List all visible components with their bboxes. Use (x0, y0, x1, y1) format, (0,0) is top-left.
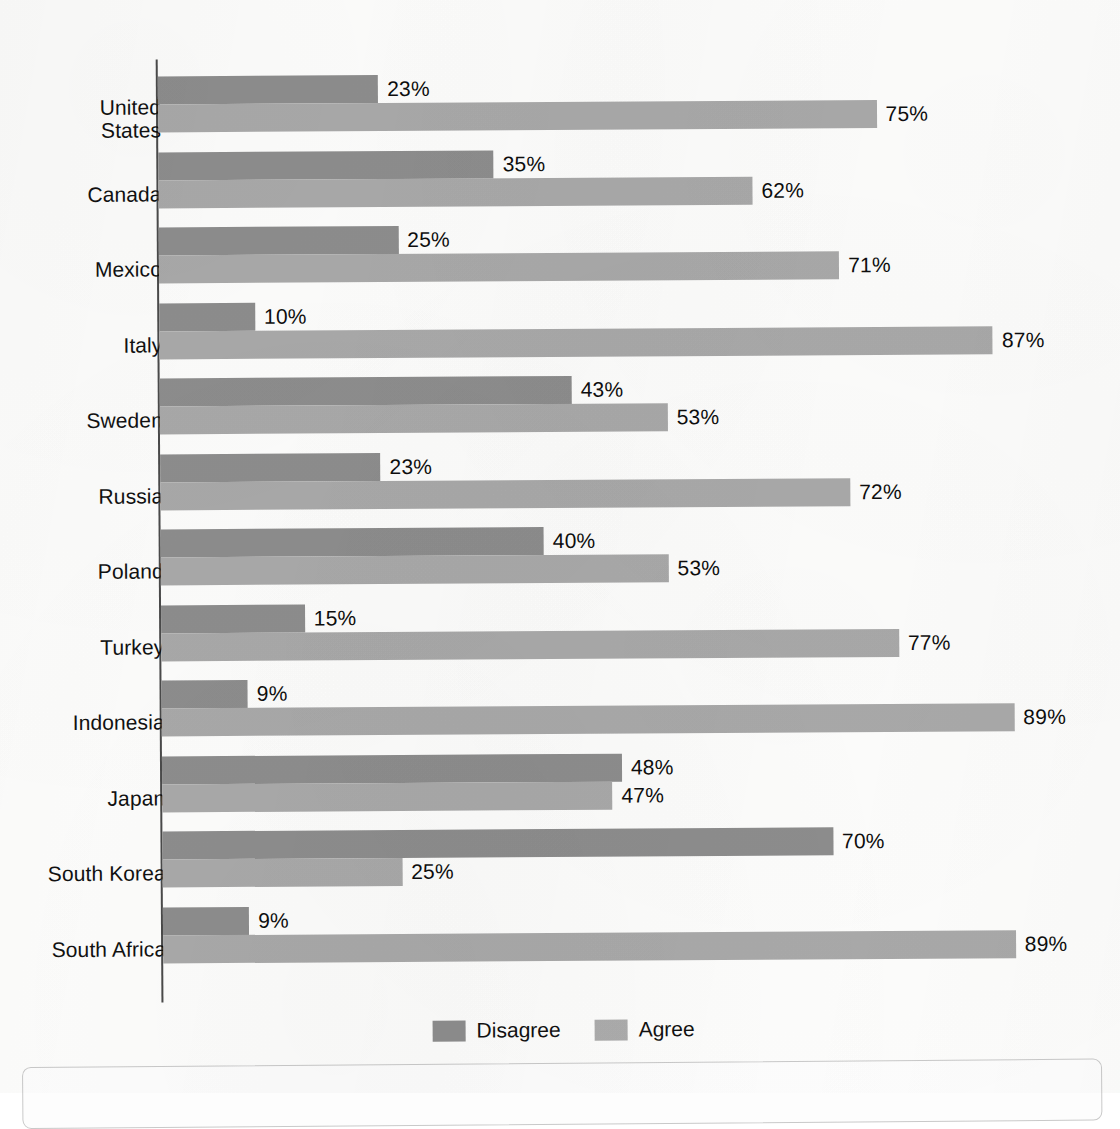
bar-disagree-sweden (160, 376, 572, 407)
bar-row-disagree: 48% (162, 753, 622, 784)
bar-row-disagree: 43% (160, 376, 572, 407)
bar-value-label: 53% (677, 405, 720, 429)
bar-value-label: 35% (503, 152, 546, 176)
bar-disagree-poland (161, 527, 544, 557)
country-group: Poland40%53% (1, 524, 1120, 591)
category-label-canada: Canada (0, 182, 162, 207)
bar-value-label: 40% (553, 529, 596, 553)
bar-row-disagree: 10% (159, 302, 255, 331)
country-group: South Africa9%89% (3, 901, 1120, 968)
bar-agree-mexico (159, 251, 839, 283)
bar-row-disagree: 25% (159, 226, 399, 255)
bar-value-label: 9% (257, 682, 288, 706)
bar-disagree-italy (159, 302, 255, 331)
bar-row-agree: 77% (161, 628, 899, 661)
bar-row-disagree: 23% (160, 453, 380, 482)
category-label-south-korea: South Korea (0, 861, 166, 886)
bar-disagree-south-korea (162, 827, 833, 859)
legend-swatch-disagree (433, 1020, 466, 1041)
bar-agree-turkey (161, 628, 899, 661)
bar-disagree-canada (158, 150, 493, 180)
plot-area: UnitedStates23%75%Canada35%62%Mexico25%7… (0, 0, 1120, 1013)
bar-value-label: 53% (677, 556, 720, 580)
bar-disagree-turkey (161, 604, 305, 633)
bar-row-disagree: 35% (158, 150, 493, 180)
bar-agree-sweden (160, 403, 668, 434)
category-label-russia: Russia (0, 484, 163, 509)
category-label-turkey: Turkey (0, 635, 164, 660)
bar-row-agree: 89% (163, 930, 1016, 963)
bar-value-label: 89% (1025, 931, 1068, 955)
bar-row-agree: 53% (161, 554, 669, 585)
bar-value-label: 43% (581, 378, 624, 402)
country-group: Japan48%47% (2, 750, 1120, 817)
legend-label-disagree: Disagree (477, 1018, 561, 1043)
bar-row-agree: 75% (158, 100, 877, 132)
bar-agree-russia (160, 478, 850, 510)
bar-agree-united-states (158, 100, 877, 132)
category-label-japan: Japan (0, 786, 165, 811)
bar-disagree-japan (162, 753, 622, 784)
bar-value-label: 62% (761, 178, 804, 202)
legend-entry-agree[interactable]: Agree (595, 1017, 695, 1042)
bar-row-disagree: 40% (161, 527, 544, 557)
bar-value-label: 77% (908, 630, 951, 654)
bar-row-agree: 62% (158, 176, 752, 208)
bar-value-label: 48% (631, 755, 674, 779)
bar-agree-south-africa (163, 930, 1016, 963)
country-group: Mexico25%71% (0, 222, 1119, 289)
category-label-mexico: Mexico (0, 257, 162, 282)
bar-row-agree: 53% (160, 403, 668, 434)
legend-swatch-agree (595, 1019, 628, 1040)
bottom-cutoff-box (22, 1059, 1102, 1129)
bar-agree-japan (162, 781, 612, 812)
bar-row-disagree: 9% (161, 680, 247, 709)
bars-container: UnitedStates23%75%Canada35%62%Mexico25%7… (0, 0, 1117, 3)
country-group: Sweden43%53% (0, 373, 1120, 440)
bar-row-agree: 25% (163, 858, 403, 887)
bar-row-agree: 89% (162, 703, 1015, 736)
country-group: Italy10%87% (0, 297, 1120, 364)
chart-legend: DisagreeAgree (4, 1015, 1120, 1046)
bar-disagree-united-states (158, 75, 378, 104)
bar-disagree-south-africa (163, 906, 249, 935)
legend-label-agree: Agree (639, 1017, 695, 1041)
bar-value-label: 25% (407, 228, 450, 252)
bar-value-label: 87% (1002, 328, 1045, 352)
country-group: Indonesia9%89% (1, 675, 1120, 742)
country-group: South Korea70%25% (2, 826, 1120, 893)
bar-value-label: 47% (621, 783, 664, 807)
country-group: UnitedStates23%75% (0, 71, 1118, 138)
country-group: Russia23%72% (0, 448, 1120, 515)
bar-value-label: 23% (387, 77, 430, 101)
bar-row-agree: 47% (162, 781, 612, 812)
bar-agree-italy (159, 326, 993, 359)
bar-disagree-mexico (159, 226, 399, 255)
bar-row-agree: 87% (159, 326, 993, 359)
bar-value-label: 70% (842, 829, 885, 853)
bar-row-agree: 72% (160, 478, 850, 510)
category-label-south-africa: South Africa (0, 937, 166, 962)
bar-agree-south-korea (163, 858, 403, 887)
bar-disagree-indonesia (161, 680, 247, 709)
legend-entry-disagree[interactable]: Disagree (433, 1018, 561, 1043)
bar-value-label: 9% (258, 908, 289, 932)
bar-row-disagree: 15% (161, 604, 305, 633)
bar-value-label: 10% (264, 304, 307, 328)
category-label-united-states: UnitedStates (0, 95, 161, 143)
bar-value-label: 89% (1023, 705, 1066, 729)
bar-agree-poland (161, 554, 669, 585)
category-label-italy: Italy (0, 333, 162, 358)
category-label-poland: Poland (0, 559, 164, 584)
country-group: Turkey15%77% (1, 599, 1120, 666)
bar-value-label: 75% (885, 102, 928, 126)
bar-value-label: 25% (411, 860, 454, 884)
grouped-bar-chart-figure: UnitedStates23%75%Canada35%62%Mexico25%7… (0, 0, 1120, 1096)
bar-row-disagree: 23% (158, 75, 378, 104)
bar-value-label: 23% (389, 454, 432, 478)
bar-row-agree: 71% (159, 251, 839, 283)
bar-agree-canada (158, 176, 752, 208)
category-label-indonesia: Indonesia (0, 710, 165, 735)
bar-value-label: 72% (859, 479, 902, 503)
bar-value-label: 15% (314, 606, 357, 630)
